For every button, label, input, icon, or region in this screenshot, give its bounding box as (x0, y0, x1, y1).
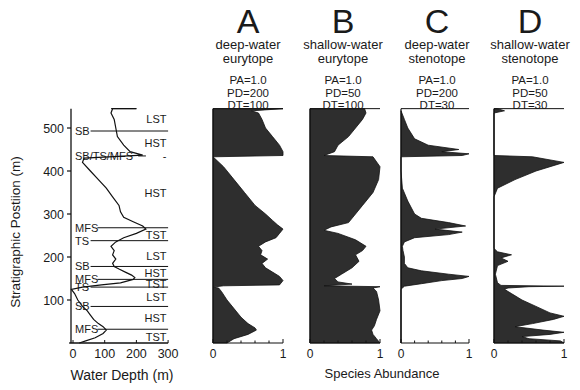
abundance-area (401, 111, 469, 343)
panel-desc-line2: stenotope (475, 52, 580, 66)
abundance-panel-d: 01 (491, 109, 568, 361)
param-pa: PA=1.0 (475, 74, 580, 87)
x-tick-label: 0 (70, 347, 77, 361)
panel-x-tick-label: 1 (280, 347, 287, 361)
systems-tract-label: LST (146, 291, 166, 303)
surface-label: MFS (75, 323, 98, 335)
x-tick-label: 100 (94, 347, 115, 361)
y-tick-label: 100 (43, 294, 64, 308)
x-axis-label-species-abundance: Species Abundance (325, 366, 440, 381)
panel-x-tick-label: 1 (561, 347, 568, 361)
systems-tract-label: HST (145, 137, 167, 149)
param-pa: PA=1.0 (193, 74, 303, 87)
systems-tract-label: LST (146, 113, 166, 125)
panel-x-tick-label: 1 (466, 347, 473, 361)
panel-letter: A (193, 4, 303, 38)
systems-tract-label: TST (146, 229, 167, 241)
panel-x-tick-label: 1 (377, 347, 384, 361)
surface-label: MFS (75, 222, 98, 234)
surface-label: SB (75, 260, 90, 272)
param-pd: PD=50 (475, 87, 580, 100)
panel-x-tick-label: 0 (307, 347, 314, 361)
panel-desc-line2: eurytope (193, 52, 303, 66)
abundance-panel-a: 01 (210, 109, 287, 361)
y-tick-label: 300 (43, 208, 64, 222)
abundance-panel-c: 01 (398, 109, 473, 361)
abundance-area (494, 109, 564, 343)
x-axis-label-water-depth: Water Depth (m) (71, 367, 174, 383)
x-tick-label: 300 (158, 347, 179, 361)
param-pd: PD=200 (193, 87, 303, 100)
x-tick-label: 200 (126, 347, 147, 361)
y-tick-label: 400 (43, 165, 64, 179)
systems-tract-label: HST (145, 187, 167, 199)
panel-letter: D (475, 4, 580, 38)
panel-x-tick-label: 0 (398, 347, 405, 361)
param-dt: DT=100 (193, 99, 303, 112)
panel-desc-line1: shallow-water (475, 38, 580, 52)
panel-x-tick-label: 0 (491, 347, 498, 361)
panel-x-tick-label: 0 (210, 347, 217, 361)
abundance-area (310, 109, 380, 343)
y-tick-label: 200 (43, 251, 64, 265)
abundance-panel-b: 01 (307, 109, 384, 361)
panel-header-a: A deep-water eurytope PA=1.0 PD=200 DT=1… (193, 4, 303, 112)
systems-tract-label: - (163, 150, 167, 162)
systems-tract-label: TST (146, 278, 167, 290)
param-dt: DT=30 (475, 99, 580, 112)
systems-tract-label: TST (146, 331, 167, 343)
panel-header-d: D shallow-water stenotope PA=1.0 PD=50 D… (475, 4, 580, 112)
water-depth-panel: 1002003004005000100200300SBSB/TS/MFSMFST… (43, 109, 178, 361)
systems-tract-label: LST (146, 250, 166, 262)
panel-desc-line1: deep-water (193, 38, 303, 52)
y-axis-label: Stratigraphic Postiion (m) (8, 156, 23, 308)
surface-label: SB (75, 125, 90, 137)
abundance-area (213, 109, 283, 343)
species-abundance-panels: 01010101 (210, 109, 568, 361)
y-tick-label: 500 (43, 122, 64, 136)
systems-tract-label: HST (145, 312, 167, 324)
surface-label: TS (75, 235, 89, 247)
